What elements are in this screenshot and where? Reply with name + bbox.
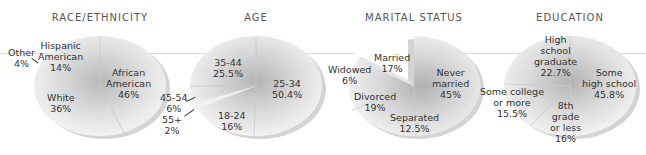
chart-race-ethnicity: RACE/ETHNICITY HispanicAmerican14% Other…: [20, 0, 180, 155]
label-55-plus: 55+2%: [162, 114, 182, 136]
label-widowed: Widowed6%: [328, 64, 371, 86]
label-8th-grade: 8thgradeor less16%: [550, 100, 581, 144]
label-african-american: AfricanAmerican46%: [106, 67, 151, 100]
label-18-24: 18-2416%: [218, 110, 246, 132]
label-hispanic: HispanicAmerican14%: [38, 40, 83, 73]
label-separated: Separated12.5%: [390, 112, 439, 134]
label-35-44: 35-4425.5%: [213, 57, 243, 79]
label-divorced: Divorced19%: [354, 91, 396, 113]
label-married: Married17%: [374, 52, 410, 74]
chart-age: AGE 35-4425.5% 25-3450.4% 45-546% 55+2% …: [176, 0, 336, 155]
label-some-college: Some collegeor more15.5%: [480, 86, 544, 119]
label-some-high-school: Somehigh school45.8%: [582, 67, 636, 100]
pie-age: [176, 0, 336, 155]
label-high-school-graduate: Highschoolgraduate22.7%: [534, 34, 577, 78]
label-white: White36%: [47, 92, 75, 114]
chart-education: EDUCATION Highschoolgraduate22.7% Somehi…: [490, 0, 646, 155]
pie-race: [20, 0, 180, 155]
label-25-34: 25-3450.4%: [272, 78, 302, 100]
label-45-54: 45-546%: [160, 92, 188, 114]
chart-marital-status: MARITAL STATUS Married17% Widowed6% Neve…: [334, 0, 494, 155]
label-never-married: Nevermarried45%: [432, 67, 469, 100]
